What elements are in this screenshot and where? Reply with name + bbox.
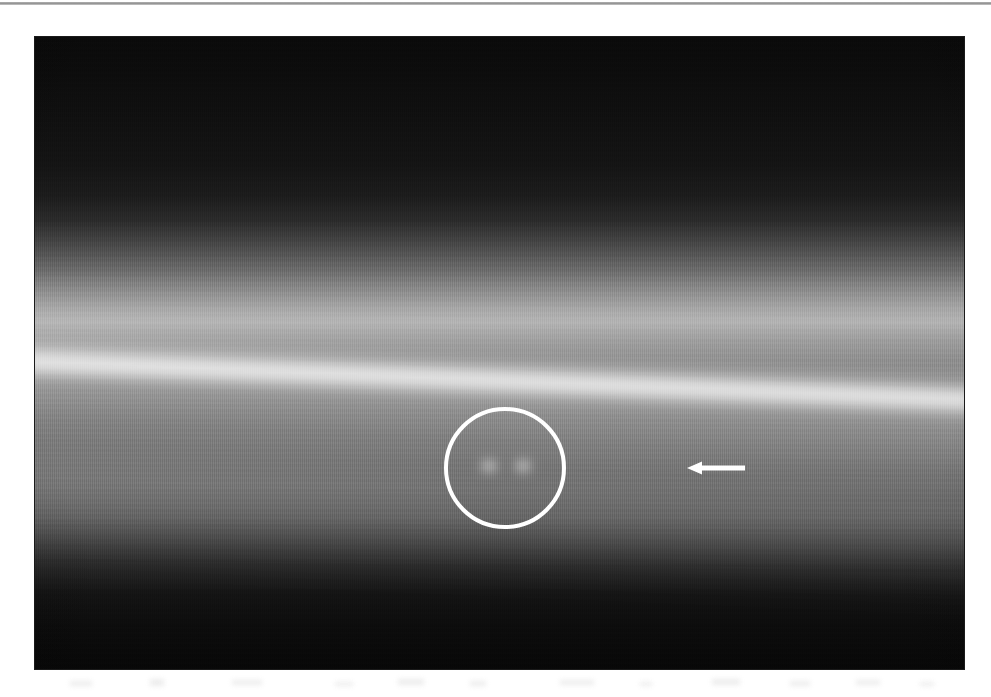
scan-smudge [712, 679, 740, 685]
scan-smudge [70, 681, 92, 686]
scan-smudge [150, 679, 164, 686]
scan-smudge [790, 681, 810, 686]
scan-smudge [560, 680, 594, 685]
scan-smudge [398, 679, 424, 685]
figure-page [0, 0, 991, 697]
scan-smudge [920, 682, 934, 686]
circle-annotation [446, 409, 564, 527]
arrow-annotation [687, 462, 745, 475]
scan-smudge [640, 682, 652, 686]
arrow-head [687, 462, 702, 475]
scan-smudge [335, 682, 353, 686]
scan-smudge [470, 681, 486, 686]
scan-smudge [232, 680, 262, 685]
arrow-shaft [702, 466, 745, 471]
scan-smudge [856, 680, 880, 685]
annotation-overlay [0, 0, 991, 697]
